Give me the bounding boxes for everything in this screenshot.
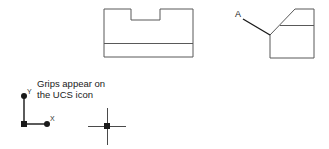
figure-canvas: A Y X Grips appear on the UCS icon bbox=[0, 0, 329, 149]
crosshair-center-grip[interactable] bbox=[104, 123, 110, 129]
notched-block-group bbox=[104, 9, 193, 57]
technical-drawing-svg: A Y X bbox=[0, 0, 329, 149]
chamfered-block-outline bbox=[270, 9, 314, 58]
notched-block-outline bbox=[104, 9, 193, 57]
caption-line-1: Grips appear on bbox=[37, 78, 105, 89]
ucs-origin-grip[interactable] bbox=[21, 121, 27, 127]
crosshair-cursor-group[interactable] bbox=[88, 108, 126, 145]
callout-leader-line bbox=[243, 19, 270, 35]
ucs-x-axis-label: X bbox=[50, 115, 55, 122]
caption-line-2: the UCS icon bbox=[37, 89, 93, 100]
ucs-y-axis-label: Y bbox=[27, 88, 32, 95]
callout-label-a: A bbox=[235, 9, 241, 19]
chamfered-block-group: A bbox=[235, 9, 314, 58]
